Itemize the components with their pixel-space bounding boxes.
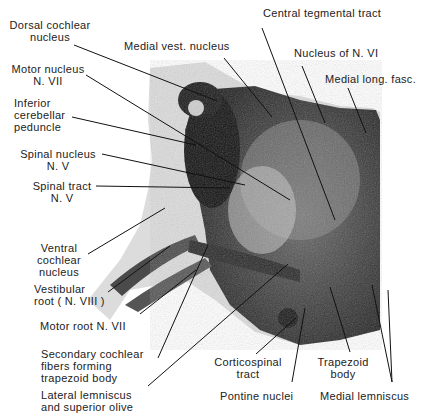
- label-line: Nucleus of N. VI: [294, 47, 378, 59]
- label-line: body: [316, 368, 370, 380]
- label-line: nucleus: [34, 266, 84, 278]
- leader-line-pontine-nuclei: [292, 308, 305, 382]
- label-line: Corticospinal: [208, 356, 288, 368]
- label-line: Lateral lemniscus: [41, 389, 133, 401]
- leader-line-vestibular-root: [108, 246, 170, 292]
- label-secondary-cochlear: Secondary cochlearfibers formingtrapezoi…: [41, 348, 144, 384]
- leader-line-medial-lemniscus-b: [372, 285, 392, 382]
- leader-line-motor-nucleus-vii: [86, 75, 290, 200]
- label-line: Dorsal cochlear: [6, 19, 94, 31]
- label-line: Trapezoid: [316, 356, 370, 368]
- label-trapezoid-body: Trapezoidbody: [316, 356, 370, 380]
- leader-line-nucleus-vi: [302, 66, 325, 123]
- label-line: tract: [208, 368, 288, 380]
- label-line: Medial vest. nucleus: [124, 40, 230, 52]
- label-inferior-cerebellar: Inferiorcerebellarpeduncle: [14, 97, 65, 133]
- label-line: Motor root N. VII: [40, 320, 126, 332]
- label-line: nucleus: [6, 31, 94, 43]
- label-line: Medial long. fasc.: [325, 73, 416, 85]
- label-medial-lemniscus: Medial lemniscus: [320, 390, 409, 402]
- label-line: Pontine nuclei: [220, 390, 293, 402]
- label-spinal-tract-v: Spinal tractN. V: [28, 180, 96, 204]
- leader-line-spinal-tract-v: [96, 186, 230, 188]
- label-line: and superior olive: [41, 401, 133, 413]
- label-vestibular-root: Vestibularroot ( N. VIII ): [34, 283, 105, 307]
- label-pontine-nuclei: Pontine nuclei: [220, 390, 293, 402]
- label-line: trapezoid body: [41, 372, 144, 384]
- label-line: Motor nucleus: [8, 63, 88, 75]
- leader-line-ventral-cochlear: [88, 208, 165, 254]
- label-corticospinal: Corticospinaltract: [208, 356, 288, 380]
- label-line: N. V: [28, 192, 96, 204]
- leader-line-medial-lemniscus-a: [388, 290, 392, 382]
- label-line: root ( N. VIII ): [34, 295, 105, 307]
- label-lateral-lemniscus: Lateral lemniscusand superior olive: [41, 389, 133, 413]
- leader-line-medial-vest: [224, 58, 272, 117]
- label-line: Inferior: [14, 97, 65, 109]
- leader-line-medial-long-fasc: [348, 88, 366, 133]
- label-medial-long-fasc: Medial long. fasc.: [325, 73, 416, 85]
- brainstem-figure: Dorsal cochlearnucleusMedial vest. nucle…: [0, 0, 435, 418]
- label-line: Secondary cochlear: [41, 348, 144, 360]
- label-central-tegmental: Central tegmental tract: [263, 7, 381, 19]
- label-line: fibers forming: [41, 360, 144, 372]
- label-line: Spinal tract: [28, 180, 96, 192]
- label-line: N. V: [18, 160, 98, 172]
- label-line: Spinal nucleus: [18, 148, 98, 160]
- label-line: Ventral: [34, 242, 84, 254]
- leader-line-secondary-cochlear: [158, 245, 208, 358]
- label-spinal-nucleus-v: Spinal nucleusN. V: [18, 148, 98, 172]
- label-line: Vestibular: [34, 283, 105, 295]
- leader-line-dorsal-cochlear: [74, 45, 217, 101]
- label-line: cerebellar: [14, 109, 65, 121]
- leader-line-corticospinal: [256, 318, 296, 354]
- label-nucleus-vi: Nucleus of N. VI: [294, 47, 378, 59]
- leader-line-spinal-nucleus-v: [102, 154, 245, 185]
- label-line: Medial lemniscus: [320, 390, 409, 402]
- label-medial-vest: Medial vest. nucleus: [124, 40, 230, 52]
- label-line: cochlear: [34, 254, 84, 266]
- label-motor-root-vii: Motor root N. VII: [40, 320, 126, 332]
- label-ventral-cochlear: Ventralcochlearnucleus: [34, 242, 84, 278]
- leader-line-trapezoid-body: [330, 287, 350, 352]
- label-motor-nucleus-vii: Motor nucleusN. VII: [8, 63, 88, 87]
- label-line: N. VII: [8, 75, 88, 87]
- label-dorsal-cochlear: Dorsal cochlearnucleus: [6, 19, 94, 43]
- label-line: Central tegmental tract: [263, 7, 381, 19]
- label-line: peduncle: [14, 121, 65, 133]
